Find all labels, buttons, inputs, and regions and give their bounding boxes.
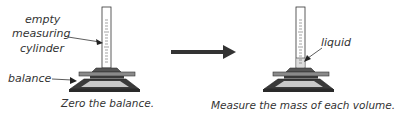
left-apparatus bbox=[52, 7, 140, 92]
balance-left bbox=[69, 68, 140, 92]
balance-leader-arrow bbox=[52, 77, 77, 84]
cylinder-leader-arrow bbox=[68, 37, 103, 45]
measuring-cylinder-empty bbox=[102, 7, 111, 68]
liquid-leader-arrow bbox=[304, 48, 322, 62]
label-empty: empty bbox=[25, 14, 60, 26]
right-apparatus bbox=[263, 7, 334, 92]
measuring-cylinder-with-liquid bbox=[296, 7, 305, 68]
caption-zero-balance: Zero the balance. bbox=[61, 97, 154, 109]
label-balance: balance bbox=[8, 73, 51, 85]
label-liquid: liquid bbox=[321, 37, 351, 49]
balance-right bbox=[263, 68, 334, 92]
label-cylinder: cylinder bbox=[20, 43, 64, 55]
caption-measure-mass: Measure the mass of each volume. bbox=[211, 99, 395, 111]
process-arrow bbox=[171, 45, 236, 59]
label-measuring: measuring bbox=[12, 28, 70, 40]
